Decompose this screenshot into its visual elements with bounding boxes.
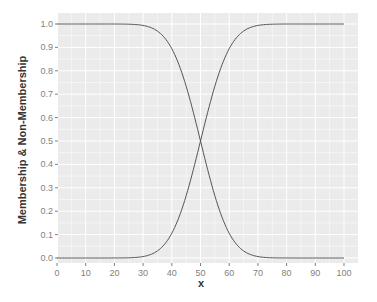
y-tick-label: 0.2 (40, 206, 53, 216)
y-tick-label: 0.7 (40, 89, 53, 99)
chart: 0.00.10.20.30.40.50.60.70.80.91.0 010203… (0, 0, 377, 302)
x-axis-title: x (198, 277, 205, 289)
y-tick-label: 0.8 (40, 66, 53, 76)
x-tick-label: 40 (167, 268, 177, 278)
y-tick-label: 0.6 (40, 113, 53, 123)
y-tick-label: 1.0 (40, 19, 53, 29)
x-tick-label: 20 (109, 268, 119, 278)
x-tick-label: 90 (310, 268, 320, 278)
x-tick-label: 60 (224, 268, 234, 278)
y-axis-ticks: 0.00.10.20.30.40.50.60.70.80.91.0 (40, 19, 58, 263)
y-tick-label: 0.5 (40, 136, 53, 146)
y-tick-label: 0.9 (40, 42, 53, 52)
x-tick-label: 30 (138, 268, 148, 278)
x-tick-label: 10 (81, 268, 91, 278)
y-tick-label: 0.3 (40, 183, 53, 193)
y-tick-label: 0.0 (40, 253, 53, 263)
y-tick-label: 0.1 (40, 230, 53, 240)
x-tick-label: 80 (282, 268, 292, 278)
plot-panel (58, 13, 358, 263)
x-axis-ticks: 0102030405060708090100 (54, 263, 351, 278)
y-axis-title: Membership & Non-Membership (16, 55, 28, 224)
x-tick-label: 0 (54, 268, 59, 278)
x-tick-label: 100 (336, 268, 351, 278)
y-tick-label: 0.4 (40, 159, 53, 169)
x-tick-label: 70 (253, 268, 263, 278)
